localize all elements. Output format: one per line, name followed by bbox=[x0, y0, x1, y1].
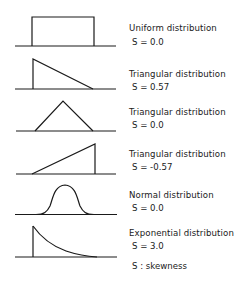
triangular-negative-shape bbox=[16, 144, 116, 174]
skewness-value: S = 0.0 bbox=[132, 203, 164, 214]
distribution-label: Exponential distribution bbox=[129, 228, 234, 239]
skewness-value: S = 0.57 bbox=[132, 82, 169, 93]
distribution-label: Normal distribution bbox=[129, 190, 214, 201]
skewness-legend: S : skewness bbox=[132, 261, 187, 272]
uniform-shape bbox=[15, 17, 116, 46]
distribution-shapes bbox=[0, 0, 237, 289]
skewness-value: S = 3.0 bbox=[132, 241, 164, 252]
skewness-value: S = -0.57 bbox=[132, 162, 172, 173]
distribution-label: Triangular distribution bbox=[129, 69, 226, 80]
skewness-value: S = 0.0 bbox=[132, 37, 164, 48]
skewness-value: S = 0.0 bbox=[132, 120, 164, 131]
normal-shape bbox=[15, 185, 117, 215]
triangular-symmetric-shape bbox=[16, 101, 116, 131]
distribution-label: Triangular distribution bbox=[129, 149, 226, 160]
distribution-label: Uniform distribution bbox=[129, 23, 217, 34]
exponential-shape bbox=[15, 226, 117, 257]
distribution-label: Triangular distribution bbox=[129, 107, 226, 118]
triangular-positive-shape bbox=[15, 59, 116, 89]
